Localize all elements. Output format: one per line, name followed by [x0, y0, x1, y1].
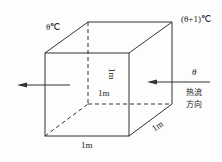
height-label: 1m [107, 68, 116, 80]
width-label: 1m [81, 141, 93, 150]
temp-right-label: (θ+1)℃ [181, 15, 211, 24]
cube-front-face [45, 53, 129, 136]
temp-left-label: θ℃ [46, 23, 60, 32]
arrow-head-icon [17, 83, 27, 88]
cube-hidden-edge [45, 104, 88, 136]
cube-edge [129, 22, 172, 53]
cube-edge [129, 104, 172, 136]
cube-diagram [0, 0, 222, 162]
depth-center-label: 1m [98, 89, 110, 98]
heat-flow-label: 热流 [186, 89, 202, 97]
direction-label: 方向 [186, 101, 202, 109]
arrow-head-icon [147, 80, 157, 85]
theta-label: θ [192, 68, 196, 77]
